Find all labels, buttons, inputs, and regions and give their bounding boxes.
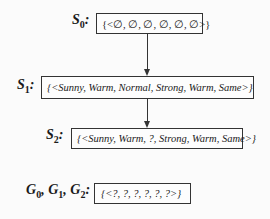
- s2-colon: :: [59, 127, 64, 142]
- edge-s0-s1: [147, 34, 148, 70]
- s2-label-main: S: [46, 127, 54, 142]
- g-colon: :: [85, 182, 90, 197]
- s2-hypothesis: {<Sunny, Warm, ?, Strong, Warm, Same>}: [77, 133, 256, 144]
- s1-box: {<Sunny, Warm, Normal, Strong, Warm, Sam…: [41, 76, 254, 99]
- g0-label-main: G: [26, 182, 36, 197]
- s0-box: {<∅, ∅, ∅, ∅, ∅, ∅>}: [96, 13, 203, 34]
- s2-box: {<Sunny, Warm, ?, Strong, Warm, Same>}: [71, 128, 243, 149]
- g-box: {<?, ?, ?, ?, ?, ?>}: [94, 183, 191, 204]
- s1-colon: :: [30, 77, 35, 92]
- edge-s1-s2: [147, 99, 148, 122]
- s0-label-main: S: [72, 12, 80, 27]
- g-label: G0, G1, G2:: [26, 182, 90, 200]
- s1-label-main: S: [17, 77, 25, 92]
- s2-label: S2:: [46, 127, 63, 145]
- s0-hypothesis: {<∅, ∅, ∅, ∅, ∅, ∅>}: [102, 18, 210, 30]
- g1-label-main: G: [48, 182, 58, 197]
- arrowhead-s1-s2-icon: [144, 121, 150, 128]
- g2-label-main: G: [70, 182, 80, 197]
- arrowhead-s0-s1-icon: [144, 69, 150, 76]
- s0-label: S0:: [72, 12, 89, 30]
- s1-label: S1:: [17, 77, 34, 95]
- s1-hypothesis: {<Sunny, Warm, Normal, Strong, Warm, Sam…: [47, 82, 253, 93]
- s0-colon: :: [85, 12, 90, 27]
- g-hypothesis: {<?, ?, ?, ?, ?, ?>}: [101, 188, 181, 199]
